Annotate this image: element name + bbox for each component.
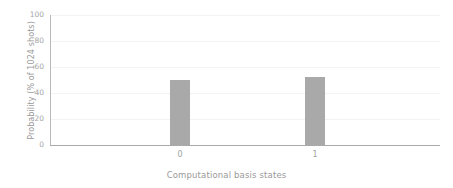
- x-axis-tick-labels: 0 1: [50, 150, 440, 162]
- plot-area: [50, 15, 440, 146]
- x-tick-label: 0: [165, 150, 195, 160]
- gridline-60: [51, 67, 440, 68]
- gridline-40: [51, 93, 440, 94]
- bar-chart: Probability (% of 1024 shots) 100 80 60 …: [0, 0, 453, 188]
- x-axis-line: [50, 145, 440, 146]
- gridline-20: [51, 119, 440, 120]
- y-tick-label: 100: [22, 11, 44, 19]
- x-axis-title: Computational basis states: [0, 170, 453, 181]
- y-tick-label: 80: [22, 37, 44, 45]
- y-tick-label: 20: [22, 115, 44, 123]
- gridline-100: [51, 15, 440, 16]
- y-tick-label: 0: [22, 141, 44, 149]
- gridline-80: [51, 41, 440, 42]
- x-tick-label: 1: [300, 150, 330, 160]
- bar-state-1: [305, 77, 325, 145]
- y-tick-label: 60: [22, 63, 44, 71]
- y-axis-line: [50, 15, 51, 146]
- bar-state-0: [170, 80, 190, 146]
- y-tick-label: 40: [22, 89, 44, 97]
